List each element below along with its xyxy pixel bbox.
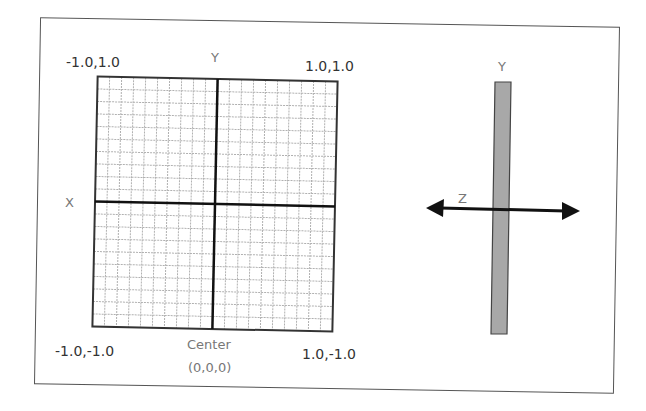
z-axis-label: Z: [458, 191, 467, 206]
diagram-canvas: -1.0,1.0 Y 1.0,1.0 X -1.0,-1.0 Center (0…: [0, 0, 646, 411]
diagram-svg: -1.0,1.0 Y 1.0,1.0 X -1.0,-1.0 Center (0…: [0, 0, 646, 411]
corner-label-top-left: -1.0,1.0: [66, 54, 120, 70]
front-view: [92, 77, 337, 332]
side-view: Y Z: [426, 59, 580, 334]
y-axis-label-side: Y: [497, 59, 506, 74]
y-axis-label-front: Y: [210, 50, 219, 65]
corner-label-bottom-right: 1.0,-1.0: [302, 346, 356, 362]
x-axis-label-front: X: [65, 195, 74, 210]
arrow-head-left-icon: [426, 199, 444, 217]
center-coordinates-label: (0,0,0): [188, 360, 231, 375]
corner-label-bottom-left: -1.0,-1.0: [55, 343, 114, 359]
center-label: Center: [187, 337, 231, 352]
corner-label-top-right: 1.0,1.0: [305, 58, 354, 74]
arrow-head-right-icon: [562, 202, 580, 220]
z-axis-arrow-shaft: [440, 208, 566, 211]
